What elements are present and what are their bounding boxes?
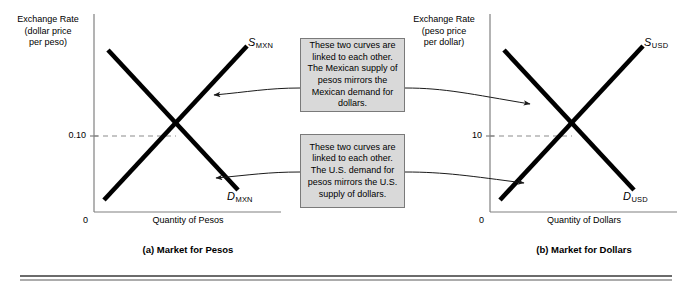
right-demand-symbol: D — [623, 190, 631, 202]
left-supply-subscript: MXN — [256, 41, 273, 50]
right-supply-subscript: USD — [652, 41, 668, 50]
right-demand-curve-label: DUSD — [623, 190, 647, 202]
left-y-axis-title: Exchange Rate (dollar price per peso) — [8, 14, 88, 49]
left-x-axis-title: Quantity of Pesos — [98, 215, 278, 225]
right-y-axis-title: Exchange Rate (peso price per dollar) — [404, 14, 484, 49]
right-panel-caption: (b) Market for Dollars — [494, 244, 674, 255]
right-equilibrium-tick-label: 10 — [442, 130, 482, 140]
left-demand-curve — [108, 50, 238, 190]
left-supply-curve-label: SMXN — [248, 36, 273, 48]
right-demand-subscript: USD — [631, 195, 647, 204]
arrow-callout1-to-right-demand — [405, 88, 530, 104]
right-supply-symbol: S — [644, 36, 651, 48]
left-demand-curve-label: DMXN — [227, 190, 252, 202]
right-x-axis-title: Quantity of Dollars — [494, 215, 674, 225]
exchange-rate-figure: Exchange Rate (dollar price per peso) 0.… — [0, 0, 692, 288]
left-origin-label: 0 — [83, 215, 88, 225]
left-equilibrium-tick-label: 0.10 — [46, 130, 86, 140]
callout-mexican-supply: These two curves are linked to each othe… — [300, 38, 405, 112]
right-origin-label: 0 — [479, 215, 484, 225]
left-supply-symbol: S — [248, 36, 255, 48]
arrow-callout2-to-left-demand — [216, 172, 300, 178]
arrow-callout1-to-left-supply — [214, 88, 300, 95]
right-demand-curve — [504, 50, 634, 190]
callout-us-demand: These two curves are linked to each othe… — [300, 134, 405, 208]
right-supply-curve-label: SUSD — [644, 36, 668, 48]
left-panel-caption: (a) Market for Pesos — [98, 244, 278, 255]
left-demand-symbol: D — [227, 190, 235, 202]
left-demand-subscript: MXN — [235, 195, 252, 204]
arrow-callout2-to-right-supply — [405, 172, 524, 183]
